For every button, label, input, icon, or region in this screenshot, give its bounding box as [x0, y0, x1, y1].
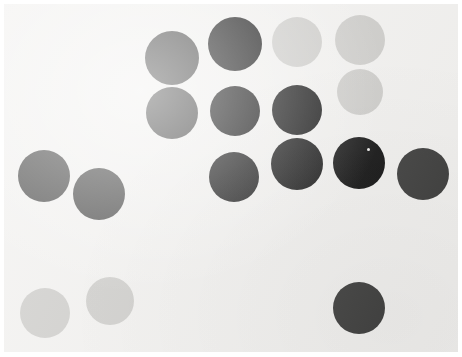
circle-dark-gray-d4: [73, 168, 125, 220]
circle-light-gray-l1: [272, 17, 322, 67]
circle-dark-gray-d6: [333, 282, 385, 334]
circle-dark-gray-d1: [145, 31, 199, 85]
circle-black-b6: [333, 137, 385, 189]
circle-dark-gray-d2: [146, 87, 198, 139]
circle-black-b3: [272, 85, 322, 135]
circle-black-b2: [210, 86, 260, 136]
circle-light-gray-l3: [337, 69, 383, 115]
circle-light-gray-l2: [335, 15, 385, 65]
highlight-speck: [367, 148, 370, 151]
circle-light-gray-l4: [20, 288, 70, 338]
circle-dark-gray-d3: [18, 150, 70, 202]
circle-black-b4: [209, 152, 259, 202]
stimulus-plate: [4, 4, 458, 352]
circle-black-b5: [271, 138, 323, 190]
circle-black-b1: [208, 17, 262, 71]
image-canvas: [0, 0, 462, 357]
circle-dark-gray-d5: [397, 148, 449, 200]
circle-light-gray-l5: [86, 277, 134, 325]
